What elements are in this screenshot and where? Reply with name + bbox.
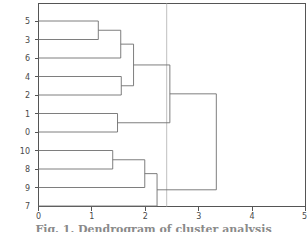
leaf-label-5: 5 <box>25 17 30 26</box>
dendrogram-link-m9 <box>39 174 158 206</box>
leaf-label-0: 0 <box>25 128 30 137</box>
dendrogram-link-m5 <box>39 114 118 133</box>
axis-frame-path <box>39 4 306 207</box>
leaf-label-6: 6 <box>25 54 30 63</box>
figure-caption: Fig. 1. Dendrogram of cluster analysis <box>0 223 307 232</box>
x-tick-label-4: 4 <box>250 212 255 221</box>
x-tick-label-3: 3 <box>196 212 201 221</box>
dendrogram-link-m8 <box>39 160 145 188</box>
dendrogram-link-m10 <box>157 94 216 190</box>
dendrogram-link-m2 <box>39 30 121 58</box>
dendrogram-figure: 0 1 2 3 4 5 5 3 6 4 2 1 0 <box>0 0 307 232</box>
dendrogram-link-m1 <box>39 21 99 40</box>
dendrogram-link-m7 <box>39 151 113 170</box>
dendrogram-link-m3 <box>39 77 122 96</box>
leaf-label-2: 2 <box>25 91 30 100</box>
leaf-label-8: 8 <box>25 165 30 174</box>
dendrogram-plot: 0 1 2 3 4 5 5 3 6 4 2 1 0 <box>0 0 307 232</box>
caption-text: Fig. 1. Dendrogram of cluster analysis <box>35 223 271 232</box>
leaf-label-1: 1 <box>25 110 30 119</box>
y-axis-ticks <box>35 21 39 188</box>
dendrogram-link-m4 <box>121 44 134 86</box>
x-tick-label-1: 1 <box>89 212 94 221</box>
x-axis-ticks <box>39 207 306 211</box>
leaf-label-9: 9 <box>25 184 30 193</box>
y-tick-labels: 5 3 6 4 2 1 0 10 8 9 7 <box>20 17 30 211</box>
x-tick-labels: 0 1 2 3 4 5 <box>36 212 307 221</box>
leaf-label-4: 4 <box>25 73 30 82</box>
dendrogram-link-m6 <box>118 65 170 123</box>
leaf-label-10: 10 <box>20 147 30 156</box>
x-tick-label-5: 5 <box>302 212 307 221</box>
x-tick-label-2: 2 <box>143 212 148 221</box>
x-tick-label-0: 0 <box>36 212 41 221</box>
axes-frame <box>39 4 306 207</box>
dendrogram-links <box>39 21 217 206</box>
leaf-label-7: 7 <box>25 202 30 211</box>
leaf-label-3: 3 <box>25 36 30 45</box>
